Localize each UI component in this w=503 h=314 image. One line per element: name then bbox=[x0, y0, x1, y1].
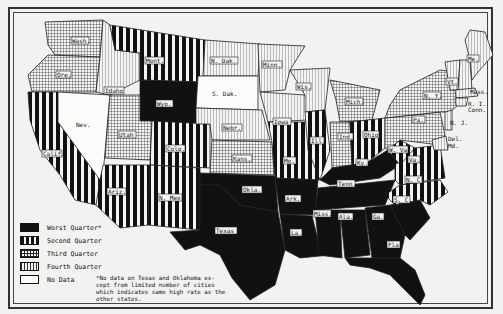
legend-label: Worst Quarter* bbox=[47, 224, 102, 232]
label-ark: Ark. bbox=[286, 195, 300, 202]
label-nev: Nev. bbox=[76, 121, 90, 128]
legend-label: No Data bbox=[47, 276, 74, 284]
label-wva: W. Va. bbox=[389, 146, 411, 153]
state-fla bbox=[345, 258, 425, 305]
label-conn: Conn. bbox=[468, 106, 486, 113]
label-mo: Mo. bbox=[284, 157, 295, 164]
swatch-fine-lines bbox=[20, 262, 39, 271]
legend-label: Third Quarter bbox=[47, 250, 98, 258]
label-del: Del. bbox=[448, 135, 462, 142]
label-nebr: Nebr. bbox=[223, 124, 241, 131]
label-mich: Mich. bbox=[346, 98, 364, 105]
legend-item-third: Third Quarter bbox=[20, 247, 102, 260]
label-nj: N. J. bbox=[450, 119, 468, 126]
state-ind bbox=[330, 122, 352, 168]
label-pa: Pa. bbox=[413, 116, 424, 123]
label-ky: Ky. bbox=[357, 159, 368, 167]
label-ga: Ga. bbox=[373, 213, 384, 220]
label-kans: Kans. bbox=[233, 155, 251, 162]
swatch-white bbox=[20, 275, 39, 284]
label-sdak: S. Dak. bbox=[212, 90, 237, 97]
label-ala: Ala. bbox=[339, 213, 353, 220]
label-miss: Miss. bbox=[314, 210, 332, 217]
label-okla: Okla. bbox=[243, 186, 261, 193]
label-ariz: Ariz. bbox=[108, 188, 126, 195]
swatch-solid-black bbox=[20, 223, 39, 232]
label-wyo: Wyo. bbox=[157, 100, 171, 108]
footnote: *No data on Texas and Oklahoma ex-cept f… bbox=[96, 275, 226, 303]
label-fla: Fla. bbox=[388, 241, 402, 248]
label-la: La. bbox=[291, 229, 302, 236]
legend-item-nodata: No Data bbox=[20, 273, 102, 286]
legend-item-worst: Worst Quarter* bbox=[20, 221, 102, 234]
label-calif: Calif. bbox=[43, 150, 65, 157]
label-wash: Wash. bbox=[72, 37, 90, 44]
label-tenn: Tenn. bbox=[338, 180, 356, 187]
label-nmex: N. Mex. bbox=[159, 194, 184, 201]
label-mass: Mass. bbox=[470, 88, 488, 95]
label-ill: Ill. bbox=[311, 137, 325, 144]
swatch-bold-stripes bbox=[20, 236, 39, 245]
label-iowa: Iowa bbox=[274, 118, 289, 125]
label-md: Md. bbox=[448, 142, 459, 149]
state-conn bbox=[455, 98, 468, 106]
label-mont: Mont. bbox=[146, 57, 164, 64]
legend-item-second: Second Quarter bbox=[20, 234, 102, 247]
label-ndak: N. Dak. bbox=[211, 57, 236, 64]
label-idaho: Idaho bbox=[105, 87, 123, 94]
label-wis: Wis. bbox=[297, 83, 311, 90]
state-nh bbox=[458, 60, 472, 90]
label-utah: Utah bbox=[119, 131, 134, 138]
label-ny: N. Y. bbox=[424, 92, 442, 99]
label-me: Me. bbox=[468, 55, 479, 62]
label-texas: Texas bbox=[216, 227, 234, 234]
label-sc: S. C. bbox=[394, 196, 412, 203]
swatch-grid bbox=[20, 249, 39, 258]
legend-label: Fourth Quarter bbox=[47, 263, 102, 271]
label-nc: N. C. bbox=[406, 176, 424, 183]
label-vt: Vt. bbox=[447, 78, 458, 85]
label-ind: Ind. bbox=[339, 133, 353, 140]
label-minn: Minn. bbox=[263, 61, 281, 68]
legend-label: Second Quarter bbox=[47, 237, 102, 245]
label-colo: Colo. bbox=[167, 145, 185, 152]
legend-item-fourth: Fourth Quarter bbox=[20, 260, 102, 273]
state-ariz bbox=[96, 165, 150, 228]
label-ohio: Ohio bbox=[364, 131, 379, 138]
map-legend: Worst Quarter* Second Quarter Third Quar… bbox=[20, 221, 102, 286]
label-va: Va. bbox=[409, 156, 420, 163]
label-ore: Ore. bbox=[57, 71, 71, 78]
